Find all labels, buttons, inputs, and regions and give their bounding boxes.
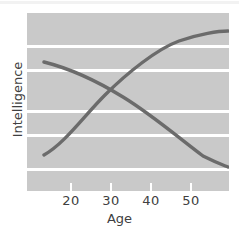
figure-top-rule: [0, 1, 239, 4]
x-tick-label-30: 30: [96, 193, 126, 208]
x-axis-label: Age: [0, 211, 239, 226]
x-tick-label-20: 20: [56, 193, 86, 208]
x-tick-50: [190, 183, 192, 191]
chart-curves: [27, 13, 229, 191]
chart-figure: 20 30 40 50 Age Intelligence: [0, 0, 239, 232]
series-crystallized-intelligence-line: [44, 31, 228, 155]
plot-area: [27, 13, 229, 191]
x-tick-30: [110, 183, 112, 191]
y-axis-label: Intelligence: [10, 40, 25, 160]
x-tick-20: [70, 183, 72, 191]
x-tick-40: [150, 183, 152, 191]
x-tick-label-50: 50: [176, 193, 206, 208]
x-tick-label-40: 40: [136, 193, 166, 208]
series-fluid-intelligence-line: [44, 62, 228, 167]
